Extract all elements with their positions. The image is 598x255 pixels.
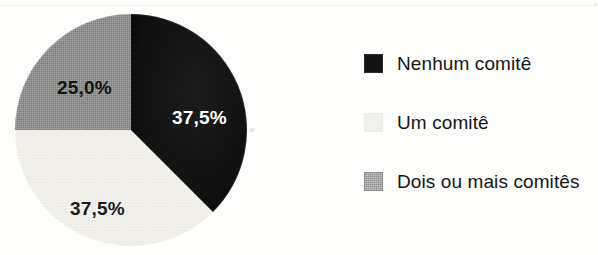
pie-chart: 37,5% 37,5% 25,0% xyxy=(14,14,248,246)
pie-slice-dois-ou-mais-comites xyxy=(15,14,131,130)
legend-item-label: Dois ou mais comitês xyxy=(397,172,580,191)
scan-artifact-speck xyxy=(248,127,255,133)
gray-swatch-icon xyxy=(364,172,383,191)
light-swatch-icon xyxy=(364,113,383,132)
legend-item-um-comite: Um comitê xyxy=(364,111,596,133)
legend-item-label: Nenhum comitê xyxy=(397,54,531,73)
scan-artifact-line xyxy=(0,5,598,6)
pie-chart-svg xyxy=(14,14,248,246)
chart-legend: Nenhum comitê Um comitê Dois ou mais com… xyxy=(364,52,596,192)
black-swatch-icon xyxy=(364,54,383,73)
pie-chart-figure: 37,5% 37,5% 25,0% Nenhum comitê Um comit… xyxy=(0,0,598,255)
legend-item-nenhum-comite: Nenhum comitê xyxy=(364,52,596,74)
scan-artifact-speck xyxy=(594,3,597,6)
legend-item-label: Um comitê xyxy=(397,113,489,132)
legend-item-dois-ou-mais-comites: Dois ou mais comitês xyxy=(364,170,596,192)
